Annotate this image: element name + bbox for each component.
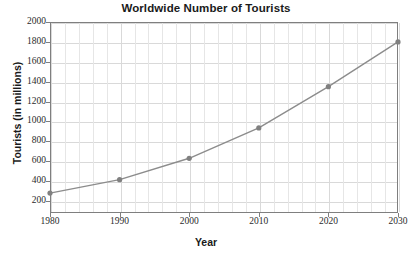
x-tick-label: 1990 [100, 216, 140, 226]
y-tick-label: 400 [32, 175, 46, 185]
series-line [50, 42, 398, 193]
data-point-marker [187, 156, 192, 161]
y-tick-label: 1000 [27, 115, 46, 125]
y-tick-label: 1800 [27, 36, 46, 46]
data-point-marker [395, 39, 400, 44]
x-tick-label: 1980 [30, 216, 70, 226]
x-tick-label: 2020 [308, 216, 348, 226]
gridline-vertical-major [399, 23, 400, 212]
chart-figure: Worldwide Number of Tourists Tourists (i… [0, 0, 412, 257]
y-tick-label: 800 [32, 135, 46, 145]
y-tick-label: 1400 [27, 76, 46, 86]
data-point-marker [47, 191, 52, 196]
chart-title: Worldwide Number of Tourists [0, 2, 412, 14]
x-tick-label: 2010 [239, 216, 279, 226]
data-point-marker [326, 84, 331, 89]
y-tick-label: 2000 [27, 16, 46, 26]
y-tick-label: 1600 [27, 56, 46, 66]
y-axis-title: Tourists (in millions) [11, 33, 23, 193]
data-point-marker [256, 125, 261, 130]
series-markers [47, 39, 400, 195]
x-tick-label: 2000 [169, 216, 209, 226]
y-tick-label: 600 [32, 155, 46, 165]
x-axis-title: Year [0, 236, 412, 248]
y-tick-label: 200 [32, 195, 46, 205]
data-point-marker [117, 177, 122, 182]
data-series-layer [50, 22, 398, 213]
x-tick-label: 2030 [378, 216, 412, 226]
y-tick-label: 1200 [27, 96, 46, 106]
